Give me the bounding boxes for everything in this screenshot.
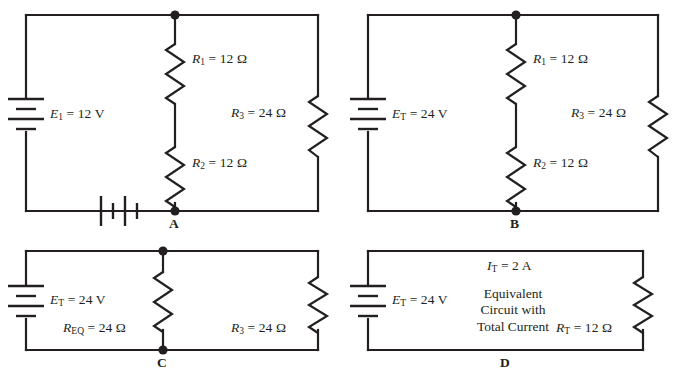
panel-b-resistor-r3 xyxy=(649,96,667,157)
panel-b-node-b xyxy=(511,206,520,215)
panel-b-label-r2: R2 = 12 Ω xyxy=(533,155,588,172)
panel-a-resistor-r2 xyxy=(166,147,184,207)
panel-c-label-req: REQ = 24 Ω xyxy=(63,320,126,337)
panel-d-letter: D xyxy=(500,355,510,371)
panel-c-resistor-r3 xyxy=(309,277,327,333)
panel-d-caption-line-2: Circuit with xyxy=(451,302,575,318)
panel-d-label-rt: RT = 12 Ω xyxy=(556,320,612,337)
panel-a-node-top xyxy=(170,10,179,19)
panel-a-node-a xyxy=(170,206,179,215)
panel-c-node-c xyxy=(158,345,167,354)
panel-a-resistor-r3 xyxy=(309,96,327,157)
panel-c-label-r3: R3 = 24 Ω xyxy=(231,320,286,337)
panel-a-source-label: E1 = 12 V xyxy=(50,106,105,123)
panel-a-letter: A xyxy=(169,216,179,232)
panel-a-label-r1: R1 = 12 Ω xyxy=(192,51,247,68)
panel-b-label-r1: R1 = 12 Ω xyxy=(533,51,588,68)
panel-b-resistor-r1 xyxy=(507,44,525,104)
panel-c-battery-et xyxy=(8,286,44,316)
panel-b-resistor-r2 xyxy=(507,147,525,207)
circuit-figure: E1 = 12 V R1 = 12 Ω R2 = 12 Ω R3 = 24 Ω … xyxy=(0,0,678,380)
panel-a-label-r3: R3 = 24 Ω xyxy=(231,105,286,122)
panel-c-node-top xyxy=(158,246,167,255)
panel-b-source-label: ET = 24 V xyxy=(392,106,448,123)
panel-b-label-r3: R3 = 24 Ω xyxy=(571,105,626,122)
panel-d-resistor-rt xyxy=(634,277,652,333)
panel-c-letter: C xyxy=(157,355,167,371)
panel-a-label-r2: R2 = 12 Ω xyxy=(192,155,247,172)
panel-a-battery-e1 xyxy=(8,99,44,129)
panel-b-letter: B xyxy=(510,216,519,232)
panel-b-node-top xyxy=(511,10,520,19)
panel-d-current-label: IT = 2 A xyxy=(487,258,532,275)
panel-c-source-label: ET = 24 V xyxy=(50,292,106,309)
panel-d-battery-et xyxy=(350,286,386,316)
panel-c-resistor-req xyxy=(154,272,172,332)
panel-d-caption-line-1: Equivalent xyxy=(451,286,575,302)
panel-a-resistor-r1 xyxy=(166,44,184,104)
panel-b-battery-et xyxy=(350,99,386,129)
panel-d-source-label: ET = 24 V xyxy=(392,292,448,309)
